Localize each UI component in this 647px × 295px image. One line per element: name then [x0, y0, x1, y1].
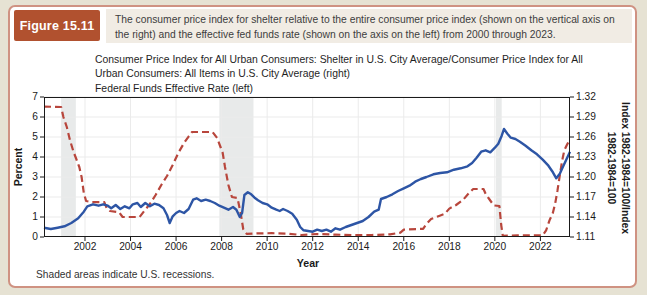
figure-label: Figure 15.11 — [14, 10, 100, 41]
x-tick-label: 2020 — [477, 241, 513, 252]
x-axis-title: Year — [282, 257, 334, 269]
right-tick-label: 1.26 — [576, 131, 606, 142]
recession-footnote: Shaded areas indicate U.S. recessions. — [36, 269, 214, 280]
legend-item-cpi-ratio: Consumer Price Index for All Urban Consu… — [52, 53, 603, 80]
legend-label: Consumer Price Index for All Urban Consu… — [95, 53, 603, 80]
left-tick-label: 7 — [16, 91, 38, 102]
plot-area — [44, 97, 570, 237]
x-tick-label: 2012 — [295, 241, 331, 252]
x-tick-label: 2008 — [204, 241, 240, 252]
x-tick-label: 2002 — [67, 241, 103, 252]
left-tick-label: 0 — [16, 231, 38, 242]
figure-caption: The consumer price index for shelter rel… — [106, 9, 632, 43]
left-tick-label: 1 — [16, 211, 38, 222]
right-tick-label: 1.11 — [576, 231, 606, 242]
right-tick-label: 1.29 — [576, 111, 606, 122]
left-tick-label: 5 — [16, 131, 38, 142]
x-tick-label: 2006 — [158, 241, 194, 252]
right-tick-label: 1.20 — [576, 171, 606, 182]
left-axis-title: Percent — [12, 142, 24, 192]
right-axis-title: Index 1982-1984=100/Index 1982-1984=100 — [604, 90, 632, 246]
dashed-line-icon — [52, 82, 86, 87]
x-tick-label: 2018 — [431, 241, 467, 252]
x-tick-label: 2010 — [249, 241, 285, 252]
right-tick-label: 1.17 — [576, 191, 606, 202]
legend-item-fed-funds: Federal Funds Effective Rate (left) — [52, 82, 603, 96]
fed-funds-line — [44, 107, 570, 236]
x-tick-label: 2004 — [113, 241, 149, 252]
x-tick-label: 2016 — [386, 241, 422, 252]
x-tick-label: 2014 — [340, 241, 376, 252]
legend-label: Federal Funds Effective Rate (left) — [95, 82, 603, 96]
left-tick-label: 2 — [16, 191, 38, 202]
solid-line-icon — [52, 53, 86, 58]
right-tick-label: 1.23 — [576, 151, 606, 162]
right-tick-label: 1.32 — [576, 91, 606, 102]
figure-label-text: Figure 15.11 — [20, 19, 95, 33]
x-tick-label: 2022 — [522, 241, 558, 252]
right-tick-label: 1.14 — [576, 211, 606, 222]
left-tick-label: 6 — [16, 111, 38, 122]
